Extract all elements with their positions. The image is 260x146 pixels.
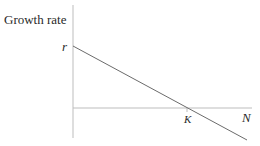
growth-rate-line: [73, 46, 247, 140]
y-intercept-label: r: [62, 39, 67, 55]
y-axis-label: Growth rate: [4, 12, 66, 28]
x-intercept-label: K: [184, 113, 191, 125]
x-axis-label: N: [242, 110, 251, 126]
